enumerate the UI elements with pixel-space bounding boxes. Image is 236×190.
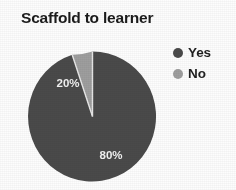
pie-label-yes: 80%: [99, 149, 122, 161]
legend-label-no: No: [188, 67, 206, 81]
legend-marker-no-icon: [173, 69, 183, 79]
legend-item-no[interactable]: No: [173, 64, 235, 84]
chart-container: Scaffold to learner 20% 80% Yes No: [0, 0, 236, 190]
pie-chart-svg: 20% 80%: [28, 51, 157, 182]
page-title: Scaffold to learner: [21, 9, 153, 27]
legend-item-yes[interactable]: Yes: [173, 43, 235, 63]
pie-chart: 20% 80%: [28, 51, 157, 182]
legend-label-yes: Yes: [188, 46, 211, 60]
pie-label-no: 20%: [56, 77, 79, 89]
legend-marker-yes-icon: [173, 48, 183, 58]
legend: Yes No: [173, 43, 235, 85]
